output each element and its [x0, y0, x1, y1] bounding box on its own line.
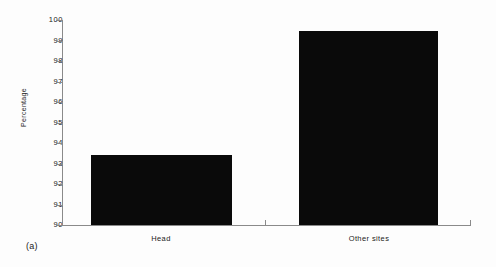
bar-other-sites — [299, 31, 438, 225]
y-tick-94: 94 — [0, 139, 63, 147]
figure-panel: Percentage 90919293949596979899100 HeadO… — [0, 0, 496, 267]
y-tick-90: 90 — [0, 221, 63, 229]
y-tick-mark — [56, 205, 63, 206]
panel-caption: (a) — [26, 241, 38, 251]
y-tick-98: 98 — [0, 57, 63, 65]
y-tick-mark — [56, 123, 63, 124]
y-tick-mark — [56, 164, 63, 165]
y-tick-95: 95 — [0, 119, 63, 127]
x-axis-line — [62, 225, 471, 226]
x-tick-mark-2 — [470, 220, 471, 226]
y-tick-mark — [56, 82, 63, 83]
y-tick-92: 92 — [0, 180, 63, 188]
x-label-other-sites: Other sites — [319, 234, 419, 243]
y-tick-91: 91 — [0, 201, 63, 209]
y-tick-97: 97 — [0, 78, 63, 86]
bar-chart: Percentage 90919293949596979899100 HeadO… — [0, 0, 496, 267]
y-tick-mark — [56, 20, 63, 21]
x-tick-mark-0 — [62, 220, 63, 226]
y-tick-93: 93 — [0, 160, 63, 168]
y-tick-mark — [56, 61, 63, 62]
x-tick-mark-1 — [265, 220, 266, 226]
y-tick-96: 96 — [0, 98, 63, 106]
y-tick-mark — [56, 184, 63, 185]
y-tick-100: 100 — [0, 16, 63, 24]
y-tick-99: 99 — [0, 37, 63, 45]
y-tick-mark — [56, 143, 63, 144]
bar-head — [91, 155, 232, 225]
x-label-head: Head — [111, 234, 211, 243]
y-tick-mark — [56, 41, 63, 42]
y-tick-mark — [56, 102, 63, 103]
